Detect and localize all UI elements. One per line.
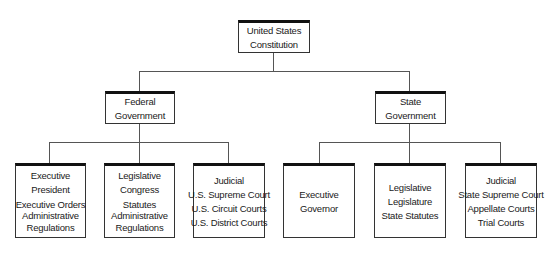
connector-federal-up [139,71,140,92]
node-label: Executive Orders [16,199,86,211]
node-label: Congress [120,184,159,196]
node-label: Legislature [388,195,432,209]
connector-state-jud-up [500,142,501,163]
node-us-constitution: United States Constitution [238,20,310,53]
connector-level1-horizontal [139,71,410,72]
node-federal-legislative: Legislative Congress Statutes Administra… [104,163,175,238]
node-label: State Statutes [382,209,439,223]
node-label: Executive [299,188,338,202]
node-label: Judicial [486,174,516,188]
node-label: U.S. Circuit Courts [192,202,267,216]
node-label: Trial Courts [478,216,524,230]
connector-state-leg-up [409,142,410,163]
connector-state-down [409,123,410,143]
node-label: Governor [300,202,338,216]
node-label: Statutes [123,199,156,211]
connector-federal-down [139,123,140,143]
node-label: Appellate Courts [467,202,534,216]
node-label: U.S. District Courts [191,216,268,230]
node-label: Government [115,109,165,123]
node-federal-government: Federal Government [105,91,175,124]
node-label: Legislative [118,170,161,182]
connector-state-horizontal [319,142,501,143]
node-label: Constitution [250,38,298,52]
node-label: State [400,95,421,109]
node-label: Government [385,109,435,123]
node-label: United States [247,24,301,38]
node-state-government: State Government [375,91,446,124]
connector-state-up [409,71,410,92]
node-state-judicial: Judicial State Supreme Court Appellate C… [465,163,537,238]
node-label: Judicial [214,174,244,188]
connector-root-down [273,52,274,72]
node-label: Regulations [27,222,75,234]
node-label: Administrative [22,210,79,222]
node-state-executive: Executive Governor [283,163,355,238]
node-federal-executive: Executive President Executive Orders Adm… [15,163,86,238]
node-label: State Supreme Court [458,188,543,202]
node-label: U.S. Supreme Court [188,188,270,202]
node-label: President [31,184,69,196]
node-federal-judicial: Judicial U.S. Supreme Court U.S. Circuit… [193,163,265,238]
connector-fed-leg-up [139,142,140,163]
node-label: Executive [31,170,70,182]
connector-fed-exec-up [49,142,50,163]
node-label: Regulations [116,222,164,234]
node-label: Federal [125,95,156,109]
node-state-legislative: Legislative Legislature State Statutes [374,163,446,238]
connector-state-exec-up [319,142,320,163]
node-label: Administrative [111,210,168,222]
connector-fed-jud-up [228,142,229,163]
node-label: Legislative [389,181,432,195]
